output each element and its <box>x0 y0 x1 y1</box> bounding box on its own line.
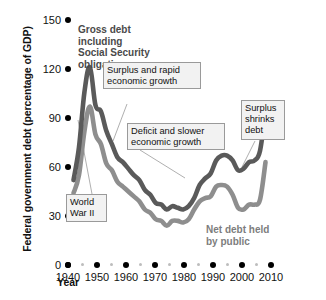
y-tick-dot-90 <box>65 115 71 121</box>
x-tick-minor-1985 <box>197 263 200 266</box>
x-tick-dot-1950 <box>94 262 100 268</box>
callout-world-war-ii: World War II <box>66 194 107 222</box>
leader-line-surplus-shrinks-debt <box>242 141 255 167</box>
x-tick-minor-1975 <box>168 263 171 266</box>
callout-surplus-shrinks-debt: Surplus shrinks debt <box>241 100 285 140</box>
y-tick-label-120: 120 <box>27 63 61 75</box>
callout-surplus-rapid-growth: Surplus and rapid economic growth <box>103 62 201 89</box>
plot-lines-layer <box>0 0 326 300</box>
x-tick-dot-1960 <box>123 262 129 268</box>
x-tick-minor-1945 <box>81 263 84 266</box>
x-tick-dot-1980 <box>181 262 187 268</box>
x-tick-minor-2005 <box>255 263 258 266</box>
y-tick-label-0: 0 <box>27 259 61 271</box>
x-tick-label-2010: 2010 <box>251 271 291 283</box>
y-tick-dot-60 <box>65 164 71 170</box>
x-tick-dot-1990 <box>210 262 216 268</box>
leader-line-deficit-slower-growth <box>140 150 185 178</box>
series-label-net-debt: Net debt held by public <box>206 224 269 247</box>
y-tick-label-150: 150 <box>27 14 61 26</box>
chart-figure: Federal government debt (percentage of G… <box>0 0 326 300</box>
callout-deficit-slower-growth: Deficit and slower economic growth <box>127 123 225 150</box>
y-tick-label-60: 60 <box>27 161 61 173</box>
y-tick-label-90: 90 <box>27 112 61 124</box>
x-tick-minor-1995 <box>226 263 229 266</box>
leader-line-surplus-rapid-growth <box>113 104 127 141</box>
y-tick-dot-120 <box>65 66 71 72</box>
x-tick-minor-1955 <box>110 263 113 266</box>
y-tick-label-30: 30 <box>27 210 61 222</box>
y-tick-dot-150 <box>65 17 71 23</box>
x-tick-minor-1965 <box>139 263 142 266</box>
x-tick-dot-1970 <box>152 262 158 268</box>
x-tick-dot-2000 <box>239 262 245 268</box>
leader-line-world-war-ii <box>78 120 92 194</box>
x-tick-dot-2010 <box>268 262 274 268</box>
x-tick-dot-1940 <box>65 262 71 268</box>
y-axis-title: Federal government debt (percentage of G… <box>21 14 33 264</box>
